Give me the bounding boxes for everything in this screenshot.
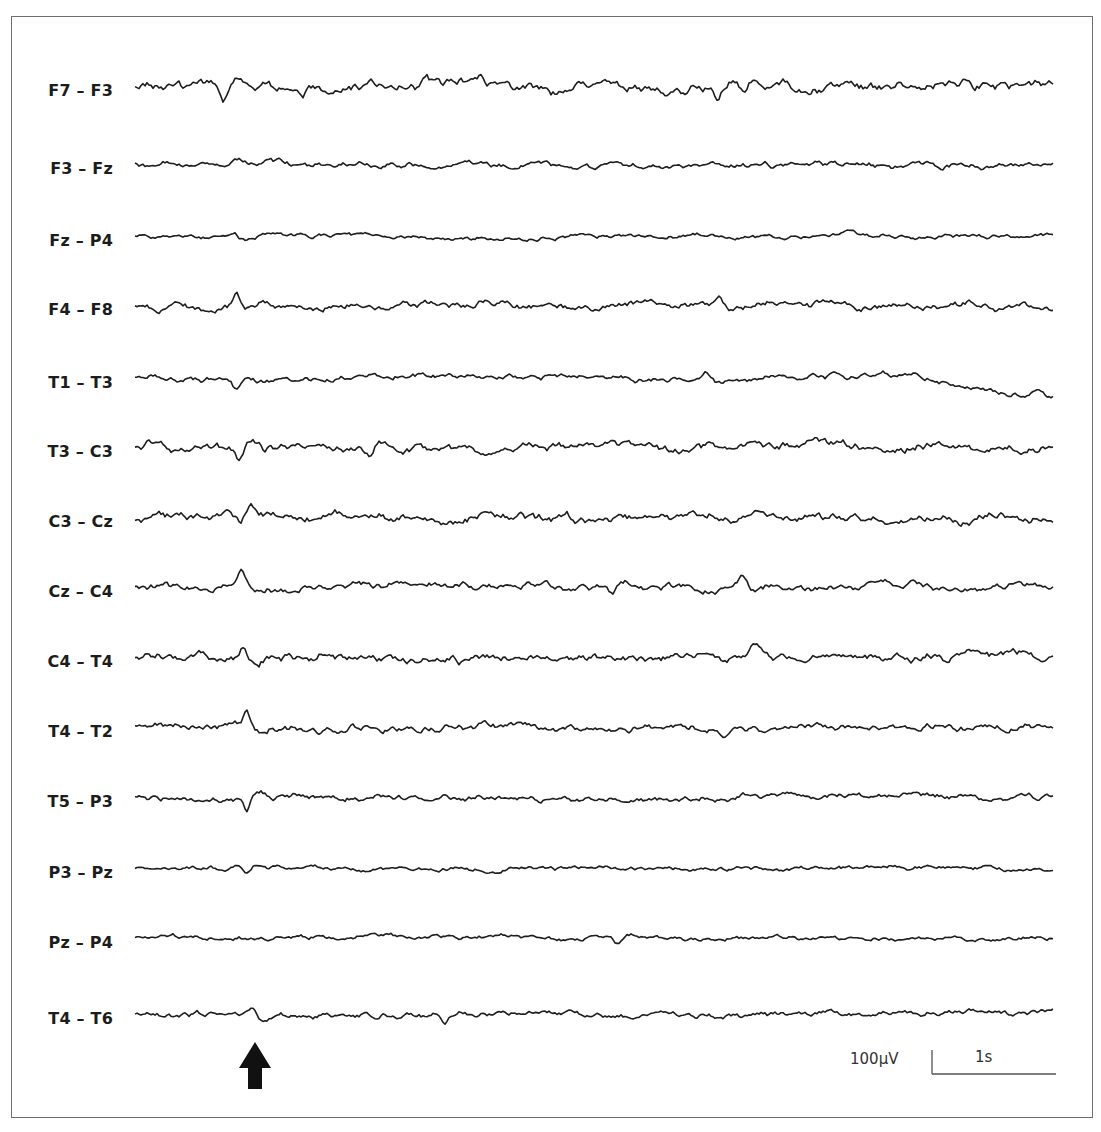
eeg-trace bbox=[135, 710, 1053, 737]
eeg-trace bbox=[135, 438, 1053, 461]
eeg-trace bbox=[135, 371, 1053, 398]
eeg-trace bbox=[135, 292, 1053, 313]
event-arrow-icon bbox=[239, 1042, 271, 1089]
scale-bar bbox=[932, 1050, 1056, 1074]
eeg-traces bbox=[0, 0, 1101, 1132]
eeg-trace bbox=[135, 504, 1053, 527]
eeg-trace bbox=[135, 791, 1053, 812]
eeg-trace bbox=[135, 158, 1053, 170]
trace-group bbox=[135, 75, 1053, 1025]
time-scale-label: 1s bbox=[975, 1048, 992, 1066]
eeg-trace bbox=[135, 1008, 1053, 1024]
eeg-trace bbox=[135, 569, 1053, 594]
eeg-trace bbox=[135, 933, 1053, 943]
amplitude-scale-label: 100µV bbox=[850, 1050, 898, 1068]
eeg-trace bbox=[135, 644, 1053, 667]
eeg-trace bbox=[135, 75, 1053, 103]
eeg-trace bbox=[135, 230, 1053, 241]
eeg-trace bbox=[135, 865, 1053, 873]
